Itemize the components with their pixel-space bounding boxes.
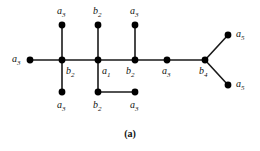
graph-node-label: a3	[130, 100, 139, 113]
graph-node	[225, 32, 232, 39]
graph-node	[132, 57, 139, 64]
graph-node	[27, 57, 34, 64]
graph-node-label: a5	[236, 79, 245, 92]
graph-node	[202, 57, 209, 64]
graph-node-label: b2	[66, 66, 75, 79]
graph-node	[95, 22, 102, 29]
figure-caption: (a)	[0, 129, 260, 139]
graph-node-label: b2	[93, 100, 102, 113]
graph-node-label: a3	[12, 54, 21, 67]
graph-node	[164, 57, 171, 64]
graph-node-label: a3	[162, 66, 171, 79]
graph-node	[132, 22, 139, 29]
graph-node	[132, 89, 139, 96]
graph-node-label: a5	[236, 29, 245, 42]
graph-node	[225, 82, 232, 89]
graph-node-label: b2	[126, 66, 135, 79]
graph-node-label: a3	[57, 6, 66, 19]
graph-node-label: a3	[130, 6, 139, 19]
node-layer	[27, 22, 232, 96]
graph-node	[95, 89, 102, 96]
graph-node	[59, 89, 66, 96]
graph-node	[59, 22, 66, 29]
graph-node-label: b4	[199, 66, 208, 79]
graph-node-label: a1	[102, 66, 111, 79]
graph-node-label: a3	[57, 100, 66, 113]
graph-node	[95, 57, 102, 64]
graph-node-label: b2	[93, 6, 102, 19]
graph-edge	[205, 60, 228, 85]
figure-container: a3b2a1b2a3b4a3b2a3a3b2a3a5a5 (a)	[0, 0, 260, 151]
graph-node	[59, 57, 66, 64]
graph-edge	[205, 35, 228, 60]
